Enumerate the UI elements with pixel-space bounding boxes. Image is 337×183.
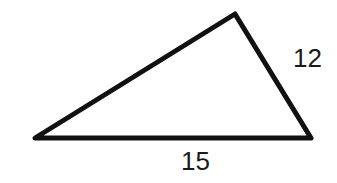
- right-side-length-label: 12: [293, 45, 322, 71]
- triangle-shape: [35, 14, 311, 138]
- triangle-diagram: [0, 0, 337, 183]
- base-length-label: 15: [181, 148, 210, 174]
